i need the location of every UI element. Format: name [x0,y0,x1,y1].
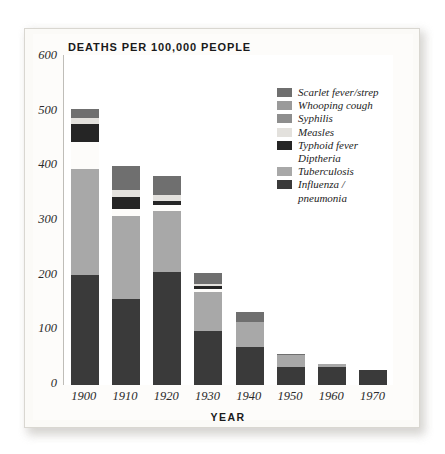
legend-swatch-icon [277,101,292,110]
x-axis-tick-1900: 1900 [71,389,96,404]
page-background: DEATHS PER 100,000 PEOPLE 60050040030020… [0,0,445,454]
x-axis-tick-1950: 1950 [277,389,302,404]
y-axis: 6005004003002001000 [0,0,63,454]
legend-label: Scarlet fever/strep [298,86,379,99]
legend-item[interactable]: Scarlet fever/strep [277,86,402,99]
bar-segment-1970-influenza-pneumonia [359,370,387,385]
y-axis-tick-100: 100 [5,321,63,336]
y-axis-tick-400: 400 [5,157,63,172]
legend-item[interactable]: Tuberculosis [277,165,402,178]
bar-segment-1930-tuberculosis [194,292,222,331]
bar-1930[interactable] [194,57,222,385]
legend-swatch-icon [277,167,292,176]
bar-1940[interactable] [236,57,264,385]
legend-item[interactable]: pneumonia [277,192,402,205]
legend-item[interactable]: Influenza / [277,178,402,191]
bar-segment-1950-influenza-pneumonia [277,367,305,385]
bar-segment-1910-influenza-pneumonia [112,299,140,385]
y-axis-tick-300: 300 [5,212,63,227]
y-axis-tick-200: 200 [5,266,63,281]
legend-swatch-icon [277,114,292,123]
x-axis-tick-1970: 1970 [360,389,385,404]
y-axis-tick-600: 600 [5,48,63,63]
bar-segment-1930-diptheria [194,289,222,292]
stacked-bar-chart: DEATHS PER 100,000 PEOPLE 60050040030020… [0,0,445,454]
bar-segment-1920-typhoid-fever [153,201,181,204]
x-axis-tick-1930: 1930 [195,389,220,404]
bar-1910[interactable] [112,57,140,385]
bar-segment-1910-scarlet-fever-strep [112,166,140,190]
bar-segment-1920-influenza-pneumonia [153,272,181,385]
legend-label: Syphilis [298,112,333,125]
legend-swatch-icon [277,88,292,97]
chart-legend: Scarlet fever/strepWhooping coughSyphili… [277,86,402,205]
bar-segment-1950-tuberculosis [277,355,305,366]
legend-item[interactable]: Typhoid fever [277,139,402,152]
bar-segment-1910-diptheria [112,209,140,216]
x-axis: 19001910192019301940195019601970 [63,389,393,411]
bar-segment-1930-influenza-pneumonia [194,331,222,385]
bar-segment-1940-tuberculosis [236,322,264,347]
bar-segment-1930-scarlet-fever-strep [194,273,222,284]
bar-segment-1930-typhoid-fever [194,286,222,289]
bar-1920[interactable] [153,57,181,385]
bar-segment-1910-tuberculosis [112,216,140,299]
legend-swatch-icon [277,128,292,137]
legend-swatch-icon [277,194,292,203]
legend-swatch-icon [277,180,292,189]
x-axis-tick-1940: 1940 [236,389,261,404]
bar-segment-1920-tuberculosis [153,211,181,272]
bar-segment-1920-diptheria [153,205,181,212]
bar-segment-1940-influenza-pneumonia [236,347,264,385]
bar-segment-1900-scarlet-fever-strep [71,109,99,118]
y-axis-tick-0: 0 [5,376,63,391]
y-axis-tick-500: 500 [5,102,63,117]
legend-item[interactable]: Diptheria [277,152,402,165]
legend-item[interactable]: Measles [277,126,402,139]
bar-segment-1950-scarlet-fever-strep [277,354,305,356]
legend-label: pneumonia [298,192,347,205]
bar-segment-1900-influenza-pneumonia [71,275,99,385]
legend-label: Typhoid fever [298,139,358,152]
legend-label: Tuberculosis [298,165,354,178]
bar-segment-1960-influenza-pneumonia [318,367,346,385]
legend-label: Whooping cough [298,99,373,112]
bar-segment-1920-measles [153,195,181,202]
legend-label: Measles [298,126,334,139]
x-axis-tick-1920: 1920 [154,389,179,404]
x-axis-title: YEAR [63,411,393,423]
bar-segment-1930-measles [194,284,222,286]
bar-segment-1900-tuberculosis [71,169,99,275]
bar-segment-1900-typhoid-fever [71,124,99,141]
legend-swatch-icon [277,141,292,150]
x-axis-tick-1960: 1960 [319,389,344,404]
bar-segment-1900-measles [71,118,99,125]
bar-segment-1940-scarlet-fever-strep [236,312,264,322]
legend-item[interactable]: Syphilis [277,112,402,125]
bar-1900[interactable] [71,57,99,385]
legend-label: Diptheria [298,152,341,165]
legend-label: Influenza / [298,178,345,191]
legend-swatch-icon [277,154,292,163]
chart-title: DEATHS PER 100,000 PEOPLE [68,41,251,53]
bar-segment-1910-measles [112,190,140,197]
bar-segment-1900-diptheria [71,142,99,169]
legend-item[interactable]: Whooping cough [277,99,402,112]
x-axis-tick-1910: 1910 [112,389,137,404]
bar-segment-1910-typhoid-fever [112,197,140,209]
bar-segment-1920-scarlet-fever-strep [153,176,181,195]
bar-segment-1960-tuberculosis [318,364,346,367]
